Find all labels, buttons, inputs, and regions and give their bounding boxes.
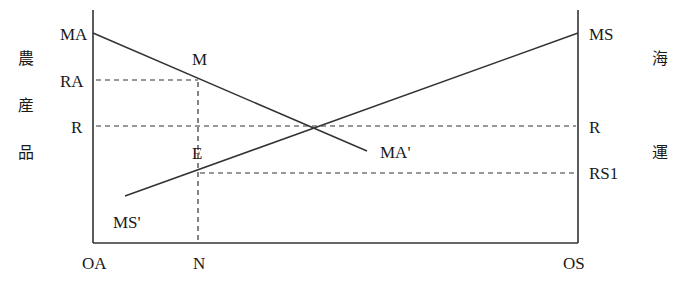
ma-curve [93,33,367,151]
left-axis-title-char-3: 品 [18,145,34,161]
label-oa: OA [82,255,107,272]
left-axis-title-char-2: 産 [18,98,34,114]
label-rs1: RS1 [589,165,618,182]
label-ma-prime: MA' [380,144,410,161]
label-ra: RA [60,73,84,90]
label-ms-prime: MS' [113,214,141,231]
label-ma: MA [60,26,87,43]
right-axis-title-char-1: 海 [652,51,668,67]
diagram-canvas [0,0,687,293]
label-r-left: R [71,119,82,136]
label-n: N [193,255,205,272]
label-os: OS [563,255,585,272]
label-point-m: M [192,51,207,68]
left-axis-title-char-1: 農 [18,51,34,67]
label-ms: MS [589,26,614,43]
label-r-right: R [589,119,600,136]
right-axis-title-char-2: 運 [652,145,668,161]
label-point-e: E [192,145,202,162]
